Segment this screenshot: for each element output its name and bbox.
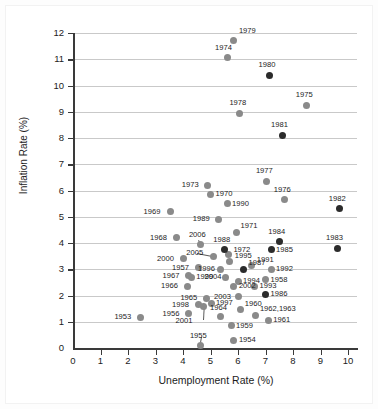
data-point-label: 2003 [214,293,231,301]
data-point-label: 1982 [329,195,346,203]
x-tick-label: 7 [256,356,276,366]
data-point-label: 2006 [189,231,206,239]
y-tick-label: 9 [38,107,64,117]
data-point-label: 1993 [260,282,277,290]
data-point-label: 1962,1963 [260,305,296,313]
data-point-label: 1968 [150,234,167,242]
data-point [233,229,240,236]
y-tick [68,33,75,34]
data-point-label: 2005 [186,249,203,257]
y-tick [68,269,75,270]
data-point [237,306,244,313]
y-tick [68,164,75,165]
x-tick-label: 4 [173,356,193,366]
data-point [207,191,214,198]
data-point [268,246,275,253]
y-tick-label: 6 [38,186,64,196]
y-tick-label: 12 [38,28,64,38]
data-point-label: 2004 [205,273,222,281]
y-tick [68,191,75,192]
data-point [224,200,231,207]
y-tick-label: 3 [38,264,64,274]
gridline [74,59,357,60]
x-axis-line [73,348,358,350]
y-tick-label: 7 [38,159,64,169]
data-point [334,245,341,252]
data-point [224,54,231,61]
data-point [228,322,235,329]
y-tick-label: 11 [38,54,64,64]
x-tick-label: 6 [228,356,248,366]
data-point-label: 1978 [229,99,246,107]
data-point [262,291,269,298]
data-point [303,102,310,109]
x-tick-label: 2 [118,356,138,366]
x-tick [293,348,294,355]
data-point [230,337,237,344]
data-point-label: 1979 [239,27,256,35]
x-tick [266,348,267,355]
y-tick [68,243,75,244]
data-point-label: 1954 [239,336,256,344]
data-point-label: 2002 [239,282,256,290]
data-point [222,274,229,281]
y-tick-label: 4 [38,238,64,248]
gridline [74,269,357,270]
data-point [200,303,207,310]
x-tick [128,348,129,355]
data-point [188,274,195,281]
data-point [204,182,211,189]
y-axis-title: Inflation Rate (%) [18,86,29,226]
scatter-plot-figure: 0123456789101112 012345678910 1953195419… [0,0,378,409]
gridline [74,138,357,139]
x-tick [183,348,184,355]
y-tick [68,138,75,139]
data-point-label: 2000 [157,255,174,263]
data-point [279,132,286,139]
data-point [167,208,174,215]
data-point-label: 1969 [144,208,161,216]
data-point-label: 1990 [232,200,249,208]
data-point-label: 1998 [172,301,189,309]
y-tick-label: 5 [38,212,64,222]
x-tick-label: 0 [63,356,83,366]
x-tick-label: 9 [311,356,331,366]
data-point [210,253,217,260]
data-point-label: 1974 [215,44,232,52]
data-point [281,196,288,203]
data-point-label: 1966 [161,282,178,290]
x-tick [101,348,102,355]
x-tick [321,348,322,355]
y-tick-label: 1 [38,317,64,327]
data-point-label: 1992 [276,265,293,273]
data-point [221,246,228,253]
gridline [74,86,357,87]
y-tick [68,217,75,218]
data-point [137,314,144,321]
data-point-label: 1976 [274,186,291,194]
x-tick [211,348,212,355]
gridline [74,322,357,323]
y-tick [68,112,75,113]
y-tick-label: 8 [38,133,64,143]
data-point-label: 1984 [268,228,285,236]
data-point-label: 1988 [213,236,230,244]
data-point [240,266,247,273]
y-tick-label: 2 [38,291,64,301]
gridline [74,112,357,113]
x-tick-label: 8 [283,356,303,366]
gridline [74,33,357,34]
data-point [226,258,233,265]
data-point [236,110,243,117]
data-point [336,205,343,212]
data-point-label: 1955 [190,332,207,340]
data-point-label: 1981 [271,121,288,129]
y-tick [68,59,75,60]
y-tick [68,296,75,297]
data-point-label: 1986 [271,290,288,298]
data-point-label: 1959 [236,322,253,330]
data-point-label: 1995 [235,252,252,260]
data-point-label: 1967 [163,272,180,280]
data-point-label: 1961 [273,316,290,324]
data-point [217,313,224,320]
